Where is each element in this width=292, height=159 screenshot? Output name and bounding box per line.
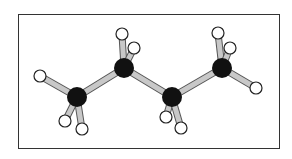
carbon-atom <box>162 87 182 107</box>
hydrogen-atom <box>59 115 71 127</box>
hydrogen-atom <box>212 27 224 39</box>
hydrogen-atom <box>116 28 128 40</box>
hydrogen-atom <box>128 42 140 54</box>
carbon-atom <box>212 58 232 78</box>
butane-molecule-diagram <box>0 0 292 159</box>
carbon-atom <box>67 87 87 107</box>
hydrogen-atom <box>34 70 46 82</box>
hydrogen-atom <box>76 123 88 135</box>
hydrogen-atom <box>250 82 262 94</box>
carbon-atom <box>114 58 134 78</box>
hydrogen-atom <box>160 111 172 123</box>
hydrogen-atom <box>224 42 236 54</box>
hydrogen-atom <box>175 122 187 134</box>
